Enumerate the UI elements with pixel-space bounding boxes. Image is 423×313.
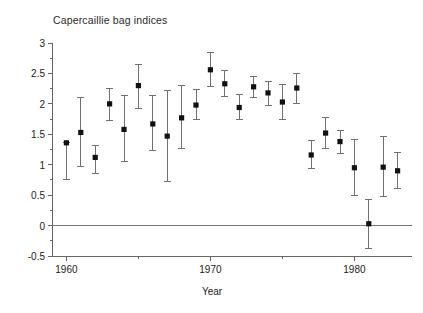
data-point-marker [136, 83, 141, 88]
data-point-marker [208, 67, 213, 72]
data-point-marker [222, 81, 227, 86]
x-axis-tick-label: 1960 [55, 264, 77, 275]
y-axis-tick-label: 0 [39, 220, 45, 231]
data-markers [64, 67, 400, 226]
x-axis-tick-label: 1970 [199, 264, 221, 275]
data-point-marker [265, 90, 270, 95]
data-point-marker [323, 130, 328, 135]
data-point-marker [64, 140, 69, 145]
y-axis-tick-label: 1 [39, 159, 45, 170]
data-point-marker [78, 130, 83, 135]
chart-figure: Capercaillie bag indices -0.500.511.522.… [0, 0, 423, 313]
data-point-marker [381, 165, 386, 170]
y-axis-tick-label: 0.5 [31, 190, 45, 201]
data-point-marker [352, 165, 357, 170]
axis-group [48, 43, 412, 261]
data-point-marker [107, 101, 112, 106]
y-axis-tick-label: -0.5 [28, 251, 45, 262]
data-point-marker [280, 99, 285, 104]
y-axis-tick-label: 1.5 [31, 129, 45, 140]
data-point-marker [294, 85, 299, 90]
data-point-marker [309, 152, 314, 157]
data-point-marker [165, 134, 170, 139]
error-bars [63, 53, 401, 248]
data-point-marker [93, 155, 98, 160]
data-point-marker [337, 139, 342, 144]
data-point-marker [193, 102, 198, 107]
y-axis-tick-label: 3 [39, 38, 45, 49]
data-point-marker [251, 84, 256, 89]
x-axis-tick-label: 1980 [343, 264, 365, 275]
data-point-marker [121, 127, 126, 132]
data-point-marker [366, 221, 371, 226]
data-point-marker [150, 121, 155, 126]
data-point-marker [395, 168, 400, 173]
x-axis-title: Year [202, 286, 222, 297]
y-axis-tick-label: 2 [39, 98, 45, 109]
data-point-marker [179, 115, 184, 120]
data-point-marker [237, 105, 242, 110]
y-axis-tick-label: 2.5 [31, 68, 45, 79]
